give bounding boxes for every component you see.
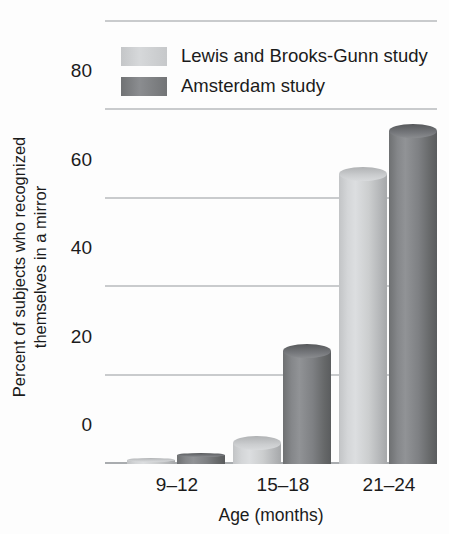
legend-label-amsterdam: Amsterdam study [181,75,325,97]
y-tick-label-40: 40 [40,237,100,262]
legend-item-lewis[interactable]: Lewis and Brooks-Gunn study [121,43,441,69]
legend-item-amsterdam[interactable]: Amsterdam study [121,73,441,99]
y-tick-label-80: 80 [40,60,100,85]
bar-cap [127,458,175,462]
bar-cap [283,344,331,358]
bar-cap [233,436,281,450]
bar-amsterdam-15-18[interactable] [283,344,331,464]
y-axis-title-line2: themselves in a mirror [30,137,51,397]
bar-amsterdam-21-24[interactable] [389,124,437,464]
bar-lewis-21-24[interactable] [339,167,387,464]
legend-label-lewis: Lewis and Brooks-Gunn study [181,45,428,67]
bar-body [389,131,437,464]
bar-chart-figure: Percent of subjects who recognized thems… [0,0,449,534]
bar-amsterdam-9-12[interactable] [177,453,225,464]
legend-swatch-icon-lewis [121,47,167,66]
bar-lewis-15-18[interactable] [233,436,281,464]
bar-cap [389,124,437,138]
bar-body [339,174,387,464]
y-tick-label-20: 20 [40,326,100,351]
bar-cap [177,453,225,457]
chart-legend: Lewis and Brooks-Gunn study Amsterdam st… [121,43,441,103]
bar-body [283,351,331,464]
y-tick-label-0: 0 [40,414,100,439]
x-tick-label-21-24: 21–24 [363,474,416,496]
legend-swatch-icon-amsterdam [121,77,167,96]
y-axis-title-line1: Percent of subjects who recognized [10,137,28,397]
bar-lewis-9-12[interactable] [127,458,175,464]
bar-cap [339,167,387,181]
x-tick-label-9-12: 9–12 [156,474,198,496]
x-axis-title: Age (months) [105,505,437,526]
y-tick-label-60: 60 [40,149,100,174]
x-tick-label-15-18: 15–18 [257,474,310,496]
